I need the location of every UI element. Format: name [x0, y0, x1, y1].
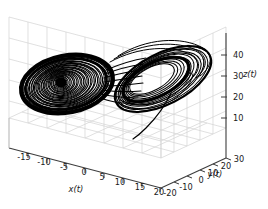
- z-tick-label: 30: [233, 71, 243, 81]
- y-tick-label: 0: [198, 175, 203, 185]
- x-tick-label: 0: [81, 167, 86, 177]
- y-tick-label: -10: [179, 182, 192, 192]
- y-axis-label: y(t): [207, 169, 223, 179]
- y-tick-label: 30: [234, 154, 244, 164]
- z-tick-labels: 40 30 20 10: [233, 50, 243, 123]
- floor-pane-grid: [9, 88, 226, 158]
- x-tick-label: -5: [60, 162, 68, 172]
- x-axis-label: x(t): [68, 184, 84, 194]
- z-axis-label: z(t): [242, 69, 257, 79]
- y-tick-label: -20: [163, 188, 176, 198]
- x-tick-label: -10: [37, 157, 50, 167]
- lorenz-attractor-figure: -15 -10 -5 0 5 10 15 20 -20 -10 0 10 20 …: [0, 0, 268, 209]
- z-tick-label: 10: [233, 113, 243, 123]
- z-tick-label: 20: [233, 92, 243, 102]
- plot-canvas: -15 -10 -5 0 5 10 15 20 -20 -10 0 10 20 …: [0, 0, 268, 209]
- x-tick-label: 5: [99, 172, 104, 182]
- x-tick-label: 10: [115, 177, 125, 187]
- x-tick-labels: -15 -10 -5 0 5 10 15 20: [17, 152, 164, 197]
- y-tick-labels: -20 -10 0 10 20 30: [163, 154, 244, 198]
- x-tick-label: 15: [135, 182, 145, 192]
- z-tick-label: 40: [233, 50, 243, 60]
- x-tick-label: -15: [17, 152, 30, 162]
